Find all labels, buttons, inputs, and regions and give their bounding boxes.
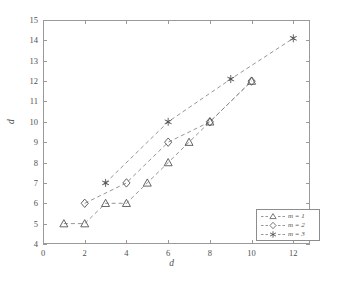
series-line-2 bbox=[85, 81, 252, 203]
chart-canvas bbox=[0, 0, 343, 285]
data-point-star bbox=[290, 34, 297, 42]
y-tick-label: 7 bbox=[12, 179, 38, 188]
legend-label-m2: m = 2 bbox=[288, 222, 305, 229]
y-tick-label: 4 bbox=[12, 240, 38, 249]
y-tick-label: 10 bbox=[12, 118, 38, 127]
y-tick-label: 9 bbox=[12, 138, 38, 147]
figure: d d m = 1 m = 2 bbox=[0, 0, 343, 285]
legend-item-m3: m = 3 bbox=[260, 230, 316, 239]
data-point-star bbox=[227, 75, 234, 83]
y-tick-label: 5 bbox=[12, 220, 38, 229]
legend-item-m2: m = 2 bbox=[260, 221, 316, 230]
legend-marker-star bbox=[260, 230, 286, 239]
series-line-1 bbox=[64, 81, 252, 224]
y-tick-label: 13 bbox=[12, 57, 38, 66]
series-markers-3 bbox=[102, 34, 297, 187]
legend: m = 1 m = 2 m = 3 bbox=[256, 209, 320, 241]
data-point-star bbox=[165, 118, 172, 126]
legend-label-m1: m = 1 bbox=[288, 213, 305, 220]
x-tick-label: 2 bbox=[73, 249, 97, 258]
series-markers-1 bbox=[60, 77, 256, 227]
legend-marker-diamond bbox=[260, 221, 286, 230]
legend-label-m3: m = 3 bbox=[288, 231, 305, 238]
legend-item-m1: m = 1 bbox=[260, 212, 316, 221]
y-tick-label: 11 bbox=[12, 97, 38, 106]
y-tick-label: 15 bbox=[12, 16, 38, 25]
y-tick-label: 8 bbox=[12, 159, 38, 168]
y-tick-label: 14 bbox=[12, 36, 38, 45]
series-markers-2 bbox=[81, 77, 255, 208]
x-tick-label: 10 bbox=[240, 249, 264, 258]
x-tick-label: 0 bbox=[31, 249, 55, 258]
y-tick-label: 6 bbox=[12, 199, 38, 208]
legend-marker-triangle bbox=[260, 212, 286, 221]
x-tick-label: 4 bbox=[114, 249, 138, 258]
x-tick-label: 6 bbox=[156, 249, 180, 258]
x-axis-label: d bbox=[0, 258, 343, 268]
series-line-3 bbox=[106, 38, 294, 183]
x-tick-label: 12 bbox=[281, 249, 305, 258]
x-tick-label: 8 bbox=[198, 249, 222, 258]
y-tick-label: 12 bbox=[12, 77, 38, 86]
